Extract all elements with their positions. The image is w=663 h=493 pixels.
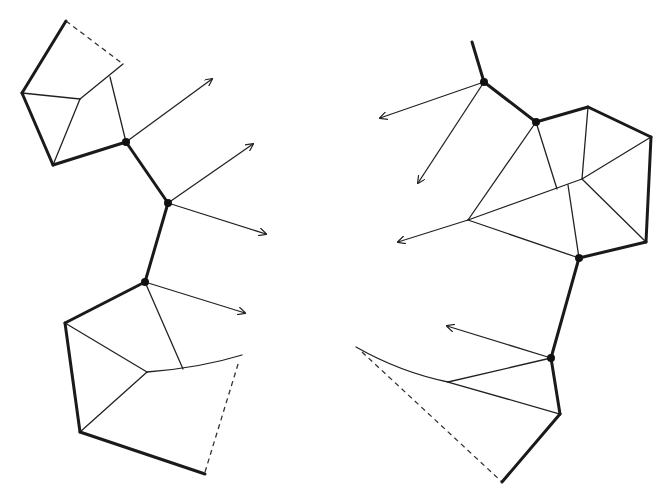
left-thin-bond <box>80 64 123 99</box>
left-molecular-structure <box>22 21 266 474</box>
left-thick-bond <box>22 93 53 165</box>
right-node <box>532 118 540 126</box>
left-dashed-edge <box>66 21 123 64</box>
left-thick-bond <box>53 142 126 165</box>
left-thin-bond <box>53 99 80 165</box>
left-thick-bond <box>145 203 168 282</box>
right-thin-bond <box>536 122 557 189</box>
right-curved-edge <box>356 347 448 382</box>
right-thin-bond <box>468 220 579 258</box>
left-thick-bond <box>65 323 80 432</box>
left-thick-bond <box>80 432 205 474</box>
right-thick-bond <box>646 137 651 242</box>
right-thick-bond <box>484 82 536 122</box>
right-thin-bond <box>468 179 582 220</box>
right-thin-bond <box>582 137 651 179</box>
left-thin-bond <box>22 93 80 99</box>
diagram-canvas <box>0 0 663 493</box>
left-thick-bond <box>126 142 168 203</box>
left-thin-bond <box>145 282 183 369</box>
right-dashed-edge <box>362 352 502 482</box>
right-thin-bond <box>448 382 560 414</box>
right-thick-bond <box>588 107 651 137</box>
right-thick-bond <box>551 258 579 358</box>
right-thin-bond <box>582 107 588 179</box>
left-node <box>122 138 130 146</box>
left-vector-arrow-icon <box>168 144 253 203</box>
left-node <box>141 278 149 286</box>
left-vector-arrow-icon <box>145 282 245 313</box>
right-node <box>575 254 583 262</box>
right-vector-arrow-icon <box>380 82 484 118</box>
right-thin-bond <box>468 122 536 220</box>
left-node <box>164 199 172 207</box>
right-thick-bond <box>551 358 560 414</box>
left-thin-bond <box>65 323 147 372</box>
right-node <box>547 354 555 362</box>
right-vector-arrow-icon <box>398 220 468 242</box>
right-thin-bond <box>448 358 551 382</box>
right-vector-arrow-icon <box>418 82 484 183</box>
right-vector-arrow-icon <box>447 326 551 358</box>
left-dashed-edge <box>205 361 239 472</box>
left-thin-bond <box>80 372 147 432</box>
right-thick-bond <box>536 107 588 122</box>
left-curved-edge <box>147 355 242 372</box>
left-vector-arrow-icon <box>126 79 212 142</box>
left-thick-bond <box>65 282 145 323</box>
right-thick-bond <box>579 242 646 258</box>
right-thick-bond <box>472 42 484 82</box>
right-node <box>480 78 488 86</box>
left-thin-bond <box>110 77 126 142</box>
right-molecular-structure <box>356 42 651 482</box>
right-thin-bond <box>568 185 579 258</box>
left-vector-arrow-icon <box>168 203 266 234</box>
right-thick-bond <box>502 414 560 482</box>
left-thick-bond <box>22 21 66 93</box>
right-thin-bond <box>582 179 646 242</box>
